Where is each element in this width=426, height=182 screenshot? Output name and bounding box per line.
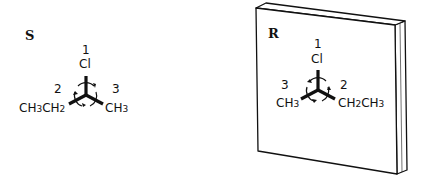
priority-label: 3: [281, 79, 289, 91]
diagram-graphics: [0, 0, 426, 182]
priority-label: 1: [82, 44, 90, 56]
priority-label: 2: [54, 83, 62, 95]
substituent-ethyl: CH3CH2: [19, 102, 65, 115]
config-label-s: S: [25, 29, 34, 42]
substituent-ethyl: CH2CH3: [338, 97, 384, 110]
substituent-cl: Cl: [311, 53, 323, 65]
priority-label: 2: [340, 79, 348, 91]
priority-label: 1: [314, 38, 322, 50]
priority-label: 3: [112, 83, 120, 95]
config-label-r: R: [268, 27, 279, 40]
enantiomer-diagram: S 1 Cl 2 CH3CH2 3 CH3 R 1 Cl 3 CH3 2 CH2…: [0, 0, 426, 182]
substituent-methyl: CH3: [105, 102, 128, 115]
left-tripod: [69, 76, 103, 107]
substituent-cl: Cl: [79, 58, 91, 70]
substituent-methyl: CH3: [276, 97, 299, 110]
